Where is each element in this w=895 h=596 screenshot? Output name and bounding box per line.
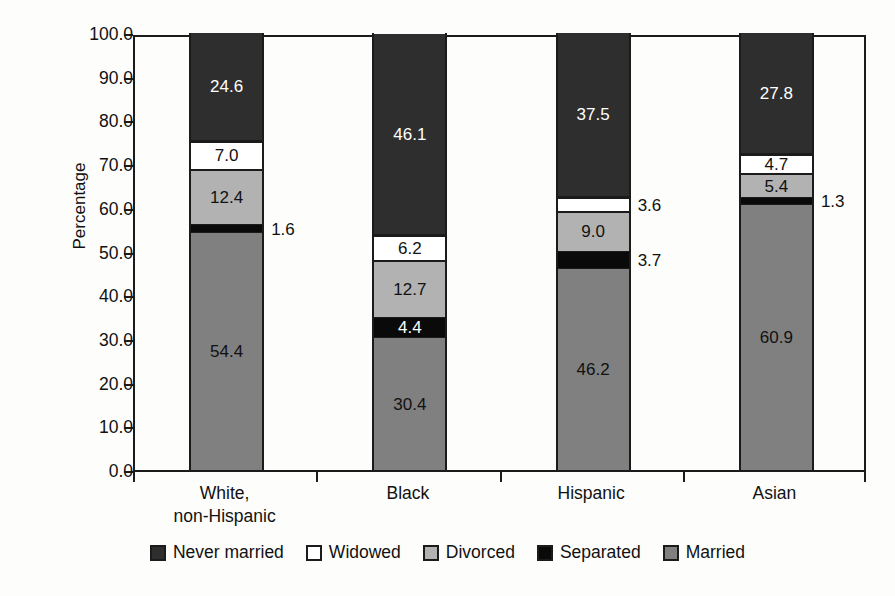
bar-segment-value-label: 54.4 [210, 343, 243, 360]
bar-segment-value-label: 30.4 [393, 396, 426, 413]
bar-segment-widowed[interactable]: 3.6 [558, 197, 629, 213]
legend-item-label: Separated [560, 542, 641, 563]
legend-item-divorced[interactable]: Divorced [423, 542, 515, 563]
bar-segment-divorced[interactable]: 12.4 [191, 171, 262, 225]
y-axis-tick-label: 40.0 [61, 288, 133, 306]
y-axis-tick-mark [124, 384, 133, 386]
bar-segment-value-label: 4.4 [398, 319, 422, 336]
y-axis-tick-marks [124, 35, 133, 472]
y-axis-tick-label: 60.0 [61, 201, 133, 219]
bar-column: 46.16.212.74.430.4 [372, 33, 447, 470]
bar-segment-value-label: 3.7 [638, 252, 662, 269]
x-axis-category-label-line: Hispanic [558, 483, 625, 503]
bar-segment-value-label: 46.1 [393, 126, 426, 143]
bar-segment-widowed[interactable]: 4.7 [741, 154, 812, 175]
bar-segment-value-label: 9.0 [581, 223, 605, 240]
legend-item-married[interactable]: Married [663, 542, 745, 563]
y-axis-tick-label: 70.0 [61, 157, 133, 175]
legend-item-label: Married [686, 542, 745, 563]
bar-segment-never-married[interactable]: 46.1 [374, 34, 445, 235]
bar-segment-divorced[interactable]: 9.0 [558, 213, 629, 252]
x-axis-tick-mark [133, 472, 135, 482]
bar-segment-never-married[interactable]: 24.6 [191, 33, 262, 141]
x-axis-category-label: Black [308, 482, 508, 505]
y-axis-tick-label: 10.0 [61, 420, 133, 438]
bar-segment-married[interactable]: 54.4 [191, 232, 262, 470]
y-axis-tick-label: 20.0 [61, 376, 133, 394]
bar-segment-divorced[interactable]: 5.4 [741, 175, 812, 199]
x-axis-category-label-line: White, [200, 483, 250, 503]
bar-segment-never-married[interactable]: 37.5 [558, 33, 629, 197]
bar-segment-value-label: 4.7 [765, 156, 789, 173]
legend-item-widowed[interactable]: Widowed [306, 542, 401, 563]
y-axis-tick-mark [124, 253, 133, 255]
bar-segment-value-label: 3.6 [638, 196, 662, 213]
y-axis-tick-mark [124, 471, 133, 473]
y-axis-tick-label: 100.0 [61, 26, 133, 44]
y-axis-tick-label: 50.0 [61, 245, 133, 263]
x-axis-tick-mark [864, 472, 866, 482]
y-axis-tick-mark [124, 296, 133, 298]
bar-segment-married[interactable]: 60.9 [741, 204, 812, 470]
stacked-bar[interactable]: 46.16.212.74.430.4 [372, 33, 447, 470]
bar-segment-value-label: 5.4 [765, 178, 789, 195]
bar-segment-value-label: 7.0 [215, 147, 239, 164]
bar-segment-widowed[interactable]: 6.2 [374, 235, 445, 262]
y-axis-tick-mark [124, 209, 133, 211]
x-axis-category-label-line: Asian [752, 483, 796, 503]
bar-segment-value-label: 6.2 [398, 240, 422, 257]
x-axis-tick-mark [316, 472, 318, 482]
bar-segment-separated[interactable]: 1.6 [191, 225, 262, 232]
bar-column: 24.67.012.41.654.4 [189, 33, 264, 470]
legend-item-label: Never married [173, 542, 284, 563]
bar-segment-value-label: 60.9 [760, 329, 793, 346]
y-axis-tick-mark [124, 121, 133, 123]
legend-item-label: Widowed [329, 542, 401, 563]
stacked-bar[interactable]: 24.67.012.41.654.4 [189, 33, 264, 470]
y-axis-tick-label: 80.0 [61, 114, 133, 132]
bar-segment-value-label: 1.6 [271, 220, 295, 237]
legend-item-never-married[interactable]: Never married [150, 542, 284, 563]
x-axis-category-label-line: non-Hispanic [125, 505, 325, 528]
bar-segment-value-label: 1.3 [821, 193, 845, 210]
stacked-bar[interactable]: 27.84.75.41.360.9 [739, 33, 814, 470]
y-axis-tick-mark [124, 78, 133, 80]
chart-page: Percentage 100.090.080.070.060.050.040.0… [0, 0, 895, 596]
legend-item-label: Divorced [446, 542, 515, 563]
bar-segment-value-label: 12.7 [393, 281, 426, 298]
legend-swatch-icon [150, 545, 166, 561]
y-axis-tick-mark [124, 427, 133, 429]
bar-segment-separated[interactable]: 4.4 [374, 318, 445, 337]
legend-item-separated[interactable]: Separated [537, 542, 641, 563]
x-axis-tick-mark [500, 472, 502, 482]
x-axis-category-label: Asian [674, 482, 874, 505]
bar-segment-widowed[interactable]: 7.0 [191, 141, 262, 172]
legend-swatch-icon [306, 545, 322, 561]
bar-segment-value-label: 27.8 [760, 85, 793, 102]
legend-swatch-icon [663, 545, 679, 561]
x-axis-tick-marks [133, 472, 866, 482]
plot-area: 24.67.012.41.654.446.16.212.74.430.437.5… [133, 35, 866, 472]
bar-segment-value-label: 12.4 [210, 189, 243, 206]
x-axis-category-label: Hispanic [491, 482, 691, 505]
chart-legend: Never marriedWidowedDivorcedSeparatedMar… [0, 542, 895, 563]
bar-segment-married[interactable]: 46.2 [558, 268, 629, 470]
bar-segment-separated[interactable]: 3.7 [558, 252, 629, 268]
bar-segment-divorced[interactable]: 12.7 [374, 262, 445, 317]
bar-segment-value-label: 24.6 [210, 78, 243, 95]
bar-segment-never-married[interactable]: 27.8 [741, 33, 812, 154]
y-axis-tick-label: 90.0 [61, 70, 133, 88]
bar-column: 37.53.69.03.746.2 [556, 33, 631, 470]
x-axis-category-label-line: Black [386, 483, 429, 503]
bar-segment-value-label: 37.5 [577, 106, 610, 123]
y-axis-tick-mark [124, 165, 133, 167]
y-axis-tick-labels: 100.090.080.070.060.050.040.030.020.010.… [52, 35, 133, 472]
stacked-bar[interactable]: 37.53.69.03.746.2 [556, 33, 631, 470]
legend-swatch-icon [537, 545, 553, 561]
x-axis-category-label: White,non-Hispanic [125, 482, 325, 528]
y-axis-tick-mark [124, 34, 133, 36]
legend-swatch-icon [423, 545, 439, 561]
bar-segment-married[interactable]: 30.4 [374, 337, 445, 470]
bar-column: 27.84.75.41.360.9 [739, 33, 814, 470]
bar-segment-value-label: 46.2 [577, 361, 610, 378]
